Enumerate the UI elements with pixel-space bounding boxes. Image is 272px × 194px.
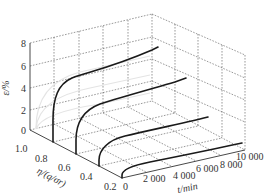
t-tick: 4 000 xyxy=(173,170,196,181)
z-tick: 0 xyxy=(21,125,26,136)
z-tick: 6 xyxy=(21,61,26,72)
z-tick: 8 xyxy=(21,38,26,49)
z-axis-title: ε/% xyxy=(0,80,11,95)
eta-tick: 0.8 xyxy=(35,153,48,164)
z-tick: 2 xyxy=(21,105,26,116)
axes xyxy=(30,43,245,178)
t-tick: 2 000 xyxy=(143,173,166,184)
creep-curves xyxy=(53,47,242,178)
t-tick: 0 xyxy=(123,181,128,192)
eta-tick: 0.6 xyxy=(58,162,71,173)
z-tick: 4 xyxy=(21,83,26,94)
curve-eta-0.6 xyxy=(76,78,186,154)
eta-tick: 0.2 xyxy=(104,181,117,192)
eta-tick: 0.4 xyxy=(80,171,93,182)
t-tick: 10 000 xyxy=(236,151,264,162)
z-tick-labels: 8 6 4 2 0 xyxy=(21,38,26,136)
t-axis-title: t/min xyxy=(176,180,198,194)
t-tick: 6 000 xyxy=(196,163,219,174)
creep-3d-chart: 8 6 4 2 0 ε/% 1.0 0.8 0.6 0.4 0.2 η/(q/σ… xyxy=(0,0,272,194)
eta-tick: 1.0 xyxy=(15,143,28,154)
